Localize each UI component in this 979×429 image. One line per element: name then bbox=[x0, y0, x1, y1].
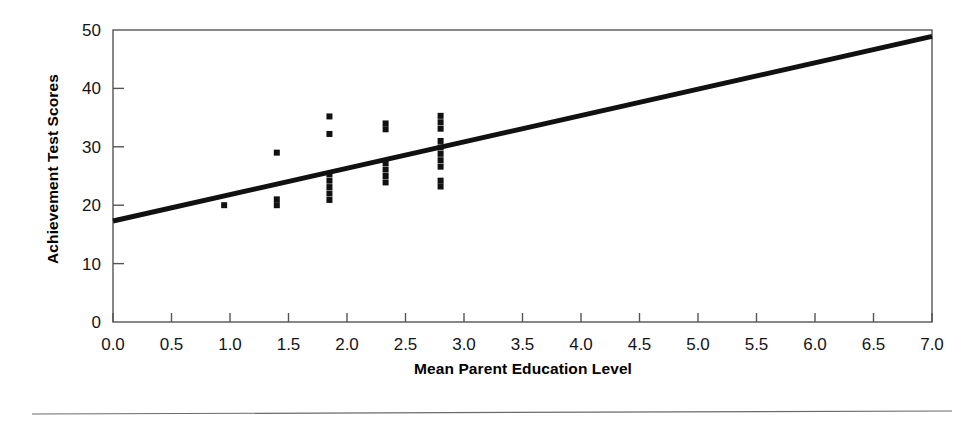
data-point bbox=[438, 157, 444, 163]
x-tick-label: 5.0 bbox=[686, 335, 710, 354]
x-tick-label: 1.5 bbox=[277, 335, 301, 354]
plot-frame bbox=[113, 30, 932, 322]
x-tick-label: 4.0 bbox=[569, 335, 593, 354]
data-point bbox=[326, 197, 332, 203]
data-point bbox=[438, 164, 444, 170]
x-axis-title-container: Mean Parent Education Level bbox=[113, 360, 933, 378]
x-tick-label: 2.0 bbox=[335, 335, 359, 354]
y-axis-title-container: Achievement Test Scores bbox=[44, 54, 62, 284]
y-tick-label: 20 bbox=[82, 196, 101, 215]
data-point bbox=[326, 131, 332, 137]
x-tick-label: 0.0 bbox=[101, 335, 125, 354]
x-tick-label: 4.5 bbox=[628, 335, 652, 354]
x-tick-label: 3.5 bbox=[511, 335, 535, 354]
data-point bbox=[438, 178, 444, 184]
regression-line-segment bbox=[113, 36, 932, 221]
x-tick-label: 6.0 bbox=[803, 335, 827, 354]
data-point bbox=[438, 126, 444, 132]
x-axis-title: Mean Parent Education Level bbox=[414, 360, 632, 377]
data-point bbox=[326, 171, 332, 177]
data-point bbox=[383, 160, 389, 166]
data-point bbox=[326, 113, 332, 119]
data-point bbox=[383, 167, 389, 173]
data-point bbox=[438, 113, 444, 119]
y-axis-ticks bbox=[113, 88, 124, 263]
data-point bbox=[274, 150, 280, 156]
data-point bbox=[326, 184, 332, 190]
scatter-plot-figure: 0.00.51.01.52.02.53.03.54.04.55.05.56.06… bbox=[0, 0, 979, 429]
data-point bbox=[326, 178, 332, 184]
y-axis-tick-labels: 01020304050 bbox=[82, 21, 101, 332]
x-axis-ticks bbox=[113, 313, 932, 322]
x-tick-label: 2.5 bbox=[394, 335, 418, 354]
y-tick-label: 10 bbox=[82, 255, 101, 274]
data-point bbox=[438, 151, 444, 157]
data-point bbox=[274, 196, 280, 202]
x-axis-tick-labels: 0.00.51.01.52.02.53.03.54.04.55.05.56.06… bbox=[101, 335, 944, 354]
y-tick-label: 30 bbox=[82, 138, 101, 157]
data-point bbox=[438, 184, 444, 190]
x-tick-label: 6.5 bbox=[862, 335, 886, 354]
y-tick-label: 40 bbox=[82, 79, 101, 98]
data-point bbox=[438, 119, 444, 125]
data-point bbox=[221, 202, 227, 208]
x-tick-label: 5.5 bbox=[745, 335, 769, 354]
data-point bbox=[274, 202, 280, 208]
regression-line bbox=[113, 36, 932, 221]
x-tick-label: 1.0 bbox=[218, 335, 242, 354]
data-point bbox=[438, 144, 444, 150]
x-tick-label: 7.0 bbox=[920, 335, 944, 354]
data-point bbox=[383, 120, 389, 126]
footer-rule bbox=[32, 411, 952, 414]
data-point bbox=[383, 179, 389, 185]
data-point bbox=[326, 191, 332, 197]
data-point bbox=[383, 126, 389, 132]
x-tick-label: 0.5 bbox=[160, 335, 184, 354]
y-axis-title: Achievement Test Scores bbox=[44, 74, 61, 264]
x-tick-label: 3.0 bbox=[452, 335, 476, 354]
data-point bbox=[383, 173, 389, 179]
data-points bbox=[221, 113, 443, 208]
footer-rule-line bbox=[32, 411, 952, 414]
y-tick-label: 0 bbox=[92, 313, 101, 332]
data-point bbox=[438, 138, 444, 144]
y-tick-label: 50 bbox=[82, 21, 101, 40]
